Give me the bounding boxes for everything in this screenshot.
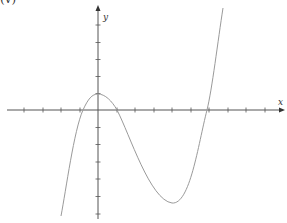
x-axis-arrow-icon (279, 108, 285, 113)
function-graph (0, 0, 287, 223)
y-axis-arrow-icon (96, 5, 101, 11)
y-axis-label: y (103, 12, 108, 22)
x-axis-label: x (278, 97, 283, 107)
function-curve (61, 8, 223, 216)
